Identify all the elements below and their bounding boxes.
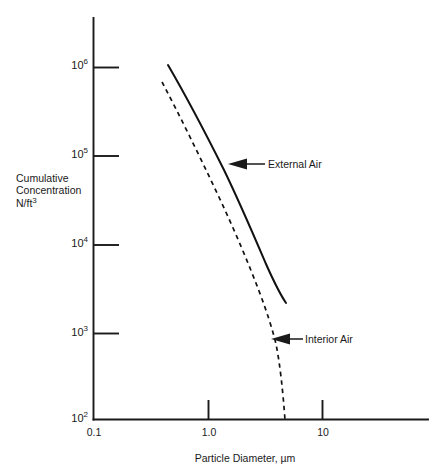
series-curve-external-air <box>168 65 286 303</box>
y-tick-label-1e3: 103 <box>56 326 88 339</box>
y-axis-title-line-1: Cumulative <box>16 172 81 184</box>
figure-container: 106 105 104 103 102 0.1 1.0 10 Cumulativ… <box>0 0 443 476</box>
y-tick-label-1e4: 104 <box>56 237 88 250</box>
y-tick-label-1e2: 102 <box>56 412 88 425</box>
interior-air-arrowhead <box>271 334 290 345</box>
x-axis-title: Particle Diameter, µm <box>155 452 335 464</box>
series-curve-interior-air <box>162 82 285 420</box>
x-tick-label-10: 10 <box>308 426 338 438</box>
x-tick-label-0p1: 0.1 <box>79 426 109 438</box>
series-label-interior-air: Interior Air <box>305 333 353 345</box>
series-label-external-air: External Air <box>268 158 322 170</box>
y-axis-title-line-3: N/ft3 <box>16 197 81 209</box>
y-axis-title: Cumulative Concentration N/ft3 <box>16 172 81 209</box>
y-axis-title-line-2: Concentration <box>16 184 81 196</box>
x-tick-label-1p0: 1.0 <box>194 426 224 438</box>
y-tick-label-1e5: 105 <box>56 148 88 161</box>
external-air-arrowhead <box>228 159 247 170</box>
y-tick-label-1e6: 106 <box>56 59 88 72</box>
